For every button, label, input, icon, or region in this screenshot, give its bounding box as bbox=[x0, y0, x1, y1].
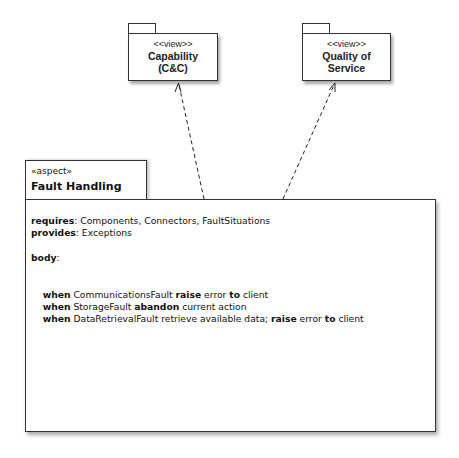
dependency-arrow-qos bbox=[283, 85, 334, 199]
package-name-line1: Capability bbox=[129, 50, 217, 62]
requires-line: requires: Components, Connectors, FaultS… bbox=[31, 215, 435, 227]
requires-value: : Components, Connectors, FaultSituation… bbox=[74, 215, 270, 226]
package-stereotype: <<view>> bbox=[303, 39, 390, 50]
package-name-line2: Service bbox=[303, 62, 390, 74]
arrowhead-capability-icon bbox=[175, 83, 181, 92]
aspect-stereotype: «aspect» bbox=[31, 165, 146, 177]
aspect-fault-handling[interactable]: requires: Components, Connectors, FaultS… bbox=[25, 199, 436, 432]
aspect-tab: «aspect» Fault Handling bbox=[25, 160, 147, 200]
requires-keyword: requires bbox=[31, 215, 74, 226]
rule-communications-fault: when CommunicationsFault raise error to … bbox=[31, 277, 435, 289]
dependency-arrow-capability bbox=[179, 85, 204, 199]
package-quality-of-service[interactable]: <<view>> Quality of Service bbox=[302, 33, 391, 81]
aspect-name: Fault Handling bbox=[31, 179, 146, 194]
package-capability[interactable]: <<view>> Capability (C&C) bbox=[128, 33, 218, 81]
package-stereotype: <<view>> bbox=[129, 39, 217, 50]
provides-value: : Exceptions bbox=[76, 227, 132, 238]
provides-line: provides: Exceptions bbox=[31, 227, 435, 239]
arrowhead-qos-icon bbox=[329, 83, 335, 92]
body-keyword: body bbox=[31, 252, 56, 263]
body-line: body: bbox=[31, 252, 435, 264]
provides-keyword: provides bbox=[31, 227, 76, 238]
package-name-line1: Quality of bbox=[303, 50, 390, 62]
package-name-line2: (C&C) bbox=[129, 62, 217, 74]
